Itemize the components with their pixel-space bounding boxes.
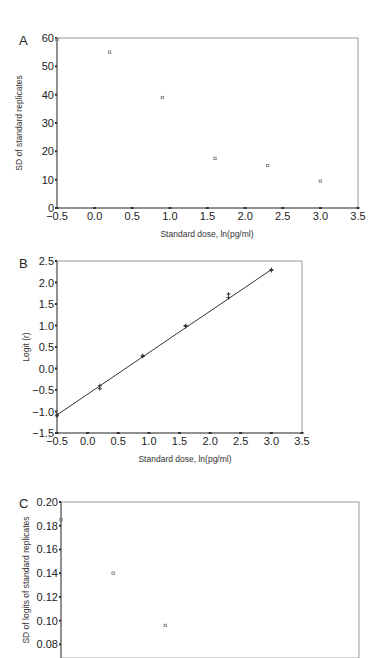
x-tick-label: −0.5 [46,210,68,222]
axes-b: −1.5−1.0−0.50.00.51.01.52.02.5−0.50.00.5… [32,255,309,447]
y-tick-label: 0.12 [37,591,58,603]
y-tick-label: 0.18 [37,520,58,532]
y-tick-label: 0.16 [37,543,58,555]
y-axis-label-c: SD of logits of standard replicates [21,516,31,643]
x-tick-label: 1.5 [200,210,215,222]
plot-frame [61,502,359,658]
axes-a: 0102030405060−0.50.00.51.01.52.02.53.03.… [42,32,366,222]
y-tick-label: 0.20 [37,496,58,508]
x-tick-label: 1.0 [162,210,177,222]
y-tick-label: 2.5 [39,255,54,267]
data-point [184,324,188,328]
axes-c: 0.080.100.120.140.160.180.20 [37,496,359,658]
y-axis-label-b: Logit (r) [21,332,31,361]
x-tick-label: 0.5 [111,435,126,447]
data-points-a [56,38,322,182]
x-tick-label: 2.5 [233,435,248,447]
x-tick-label: 1.0 [141,435,156,447]
data-point [214,157,216,159]
panel-label-a: A [19,33,28,48]
panel-label-c: C [19,496,28,511]
data-point [227,292,231,296]
y-tick-label: −0.5 [32,384,54,396]
data-point [227,296,231,300]
y-tick-label: 2.0 [39,277,54,289]
x-tick-label: 3.0 [264,435,279,447]
x-tick-label: 2.0 [202,435,217,447]
x-tick-label: 2.5 [275,210,290,222]
panel-label-b: B [19,256,28,271]
y-tick-label: 0.5 [39,341,54,353]
data-point [267,164,269,166]
y-tick-label: 50 [42,60,54,72]
x-tick-label: 0.0 [80,435,95,447]
y-tick-label: 10 [42,174,54,186]
data-point [164,624,166,626]
y-tick-label: 40 [42,89,54,101]
x-tick-label: 2.0 [237,210,252,222]
x-tick-label: 3.5 [294,435,309,447]
data-point [161,96,163,98]
y-tick-label: −1.0 [32,406,54,418]
x-tick-label: 1.5 [172,435,187,447]
y-tick-label: 0.08 [37,638,58,650]
data-point [269,268,273,272]
figure: A SD of standard replicates Standard dos… [0,0,385,658]
x-axis-label-a: Standard dose, ln(pg/ml) [160,229,253,239]
x-tick-label: 3.5 [350,210,365,222]
data-point [108,51,110,53]
x-axis-label-b: Standard dose, ln(pg/ml) [138,454,231,464]
x-tick-label: 0.5 [125,210,140,222]
plot-frame [57,261,302,433]
y-tick-label: 30 [42,117,54,129]
y-tick-label: 20 [42,145,54,157]
y-axis-label-a: SD of standard replicates [14,75,24,170]
y-tick-label: 0.10 [37,615,58,627]
regression-line [57,270,271,415]
panel-b: B Logit (r) Standard dose, ln(pg/ml) −1.… [19,255,310,464]
y-tick-label: 0.14 [37,567,58,579]
y-tick-label: 60 [42,32,54,44]
y-tick-label: 0.0 [39,363,54,375]
y-tick-label: 1.0 [39,320,54,332]
y-tick-label: 1.5 [39,298,54,310]
x-tick-label: 3.0 [313,210,328,222]
data-point [319,180,321,182]
x-tick-label: −0.5 [46,435,68,447]
data-point [112,572,114,574]
panel-a: A SD of standard replicates Standard dos… [14,32,366,239]
panel-c: C SD of logits of standard replicates 0.… [19,496,359,658]
data-points-b [55,268,273,418]
data-points-c [60,519,167,627]
x-tick-label: 0.0 [87,210,102,222]
plot-frame [57,38,358,208]
